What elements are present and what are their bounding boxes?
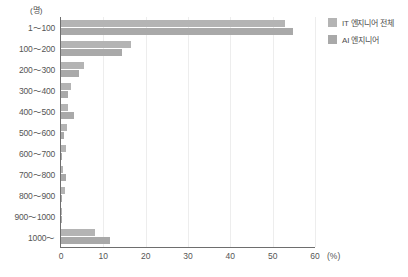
bar-ai-engineer[interactable] bbox=[61, 237, 110, 244]
category-label: 600～700 bbox=[19, 147, 55, 159]
bar-it-engineer-total[interactable] bbox=[61, 124, 67, 131]
legend-swatch-icon bbox=[328, 35, 337, 44]
category-label: 300～400 bbox=[19, 84, 55, 96]
bar-it-engineer-total[interactable] bbox=[61, 20, 285, 27]
category-label: 900～1000 bbox=[15, 210, 56, 222]
x-tick-label: 60 bbox=[310, 251, 319, 261]
bar-row: 900～1000 bbox=[61, 205, 315, 226]
bar-row: 500～600 bbox=[61, 122, 315, 143]
bar-it-engineer-total[interactable] bbox=[61, 187, 65, 194]
category-label: 800～900 bbox=[19, 189, 55, 201]
chart-legend: IT 엔지니어 전체 AI 엔지니어 bbox=[328, 17, 408, 51]
category-label: 1～100 bbox=[28, 21, 55, 33]
bar-ai-engineer[interactable] bbox=[61, 70, 79, 77]
bar-it-engineer-total[interactable] bbox=[61, 62, 84, 69]
bar-row: 700～800 bbox=[61, 163, 315, 184]
legend-item-label: AI 엔지니어 bbox=[342, 34, 378, 45]
bar-ai-engineer[interactable] bbox=[61, 91, 68, 98]
category-label: 200～300 bbox=[19, 63, 55, 75]
bar-row: 300～400 bbox=[61, 80, 315, 101]
bar-ai-engineer[interactable] bbox=[61, 216, 62, 223]
bar-row: 1～100 bbox=[61, 17, 315, 38]
bar-it-engineer-total[interactable] bbox=[61, 104, 68, 111]
y-axis-unit-label: (명) bbox=[30, 4, 42, 15]
x-axis-unit-label: (%) bbox=[327, 251, 340, 261]
category-label: 700～800 bbox=[19, 168, 55, 180]
plot-area: 1～100100～200200～300300～400400～500500～600… bbox=[61, 17, 315, 247]
bar-it-engineer-total[interactable] bbox=[61, 145, 66, 152]
x-tick-label: 30 bbox=[183, 251, 192, 261]
bar-it-engineer-total[interactable] bbox=[61, 41, 131, 48]
bar-ai-engineer[interactable] bbox=[61, 112, 74, 119]
bar-row: 1000～ bbox=[61, 226, 315, 247]
bar-it-engineer-total[interactable] bbox=[61, 83, 71, 90]
legend-item-ai-engineer[interactable]: AI 엔지니어 bbox=[328, 34, 408, 44]
bar-ai-engineer[interactable] bbox=[61, 153, 62, 160]
category-label: 400～500 bbox=[19, 105, 55, 117]
category-label: 1000～ bbox=[28, 231, 55, 243]
bar-row: 800～900 bbox=[61, 184, 315, 205]
bar-row: 200～300 bbox=[61, 59, 315, 80]
legend-item-label: IT 엔지니어 전체 bbox=[342, 17, 393, 28]
bar-it-engineer-total[interactable] bbox=[61, 208, 62, 215]
gridline bbox=[315, 17, 316, 247]
bar-ai-engineer[interactable] bbox=[61, 132, 64, 139]
bar-row: 600～700 bbox=[61, 142, 315, 163]
x-tick-label: 20 bbox=[141, 251, 150, 261]
bar-row: 100～200 bbox=[61, 38, 315, 59]
x-tick-label: 50 bbox=[268, 251, 277, 261]
bar-ai-engineer[interactable] bbox=[61, 195, 62, 202]
horizontal-bar-chart: (명) 1～100100～200200～300300～400400～500500… bbox=[0, 0, 408, 277]
bar-row: 400～500 bbox=[61, 101, 315, 122]
legend-item-it-engineer-total[interactable]: IT 엔지니어 전체 bbox=[328, 17, 408, 27]
bar-ai-engineer[interactable] bbox=[61, 28, 293, 35]
category-label: 100～200 bbox=[19, 42, 55, 54]
bar-it-engineer-total[interactable] bbox=[61, 229, 95, 236]
bar-it-engineer-total[interactable] bbox=[61, 166, 63, 173]
bar-ai-engineer[interactable] bbox=[61, 174, 66, 181]
legend-swatch-icon bbox=[328, 18, 337, 27]
category-label: 500～600 bbox=[19, 126, 55, 138]
x-tick-label: 10 bbox=[99, 251, 108, 261]
x-tick-label: 40 bbox=[226, 251, 235, 261]
bar-ai-engineer[interactable] bbox=[61, 49, 122, 56]
x-tick-label: 0 bbox=[59, 251, 64, 261]
